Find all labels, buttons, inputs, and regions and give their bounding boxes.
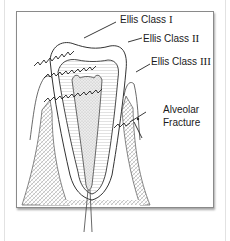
label-numeral: I (169, 13, 173, 25)
ellis-class-3-leader (136, 64, 150, 72)
alveolar-fracture-crack (134, 122, 142, 138)
label-text: Ellis Class (120, 14, 166, 25)
label-numeral: III (200, 55, 211, 67)
label-ellis-class-2: Ellis Class II (143, 33, 199, 44)
label-fracture: Fracture (163, 117, 200, 128)
ellis-class-2-leader (128, 38, 142, 42)
ellis-class-1-leader (84, 22, 116, 38)
label-ellis-class-3: Ellis Class III (151, 56, 211, 67)
label-numeral: II (192, 32, 199, 44)
label-alveolar: Alveolar (163, 104, 199, 115)
label-text: Ellis Class (151, 56, 197, 67)
label-text: Ellis Class (143, 33, 189, 44)
label-ellis-class-1: Ellis Class I (120, 14, 173, 25)
